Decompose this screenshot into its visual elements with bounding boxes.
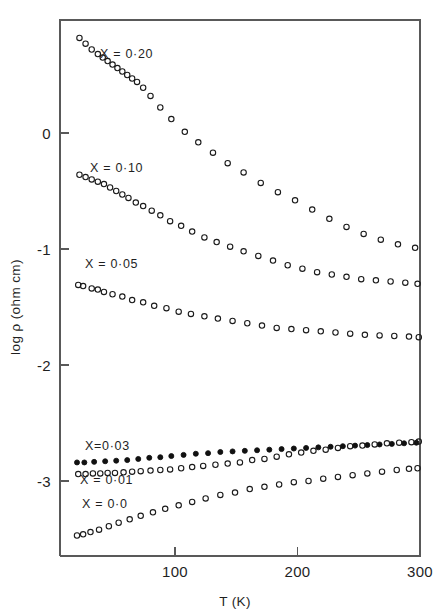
figure-panel: X = 0·20X = 0·10X = 0·05X=0·03X = 0·01X …	[0, 0, 448, 615]
data-point	[89, 177, 94, 182]
data-point	[158, 105, 163, 110]
data-point	[406, 466, 411, 471]
data-point	[245, 321, 250, 326]
data-point	[103, 459, 108, 464]
data-point	[403, 280, 408, 285]
data-point	[158, 467, 163, 472]
data-point	[134, 79, 139, 84]
data-point	[392, 333, 397, 338]
data-point	[114, 188, 119, 193]
data-point	[158, 213, 163, 218]
data-point	[127, 517, 132, 522]
data-point	[178, 223, 183, 228]
data-point	[328, 444, 333, 449]
y-axis-tick-label: 0	[42, 125, 51, 142]
data-point	[163, 506, 168, 511]
data-point	[388, 279, 393, 284]
data-point	[120, 294, 125, 299]
data-point	[247, 486, 252, 491]
x-axis-tick-label: 300	[407, 563, 433, 580]
data-point	[360, 443, 365, 448]
data-point	[215, 316, 220, 321]
y-axis-title: log ρ (ohm cm)	[8, 259, 23, 355]
data-point	[225, 160, 230, 165]
resistivity-vs-temperature-chart: X = 0·20X = 0·10X = 0·05X=0·03X = 0·01X …	[0, 0, 448, 615]
data-point	[292, 198, 297, 203]
data-point	[120, 192, 125, 197]
data-point	[230, 318, 235, 323]
data-point	[148, 468, 153, 473]
data-point	[110, 62, 115, 67]
data-point	[314, 270, 319, 275]
data-point	[316, 445, 321, 450]
data-point	[110, 292, 115, 297]
data-point	[275, 189, 280, 194]
data-point	[83, 174, 88, 179]
data-point	[276, 482, 281, 487]
data-point	[321, 476, 326, 481]
data-point	[267, 447, 272, 452]
data-point	[241, 170, 246, 175]
data-point	[406, 334, 411, 339]
series-label: X = 0·01	[80, 473, 133, 487]
data-point	[202, 235, 207, 240]
data-point	[344, 224, 349, 229]
data-point	[365, 471, 370, 476]
series-annotations-group: X = 0·20X = 0·10X = 0·05X=0·03X = 0·01X …	[80, 47, 153, 511]
series-label: X = 0·0	[82, 497, 128, 511]
data-point	[311, 448, 316, 453]
data-point	[347, 444, 352, 449]
data-point	[149, 208, 154, 213]
data-point	[218, 450, 223, 455]
data-point	[279, 447, 284, 452]
data-point	[213, 462, 218, 467]
data-point	[335, 445, 340, 450]
data-point	[129, 76, 134, 81]
data-point	[327, 216, 332, 221]
tick-labels-group: 0-1-2-3100200300	[37, 125, 433, 581]
data-point	[107, 185, 112, 190]
y-axis-tick-label: -3	[37, 473, 51, 490]
data-point	[83, 41, 88, 46]
data-point	[377, 333, 382, 338]
data-point	[373, 278, 378, 283]
data-point	[298, 450, 303, 455]
data-point	[126, 195, 131, 200]
data-point	[151, 303, 156, 308]
data-point	[115, 65, 120, 70]
data-point	[255, 448, 260, 453]
data-point	[125, 458, 130, 463]
data-point	[88, 529, 93, 534]
data-point	[306, 478, 311, 483]
data-point	[333, 330, 338, 335]
data-point	[120, 69, 125, 74]
data-point	[133, 200, 138, 205]
data-point	[289, 326, 294, 331]
data-point	[92, 459, 97, 464]
data-point	[396, 440, 401, 445]
data-point	[300, 266, 305, 271]
data-series	[77, 35, 418, 250]
x-axis-tick-label: 100	[162, 563, 188, 580]
data-point	[148, 93, 153, 98]
data-point	[258, 180, 263, 185]
data-point	[237, 460, 242, 465]
data-point	[75, 460, 80, 465]
data-point	[77, 172, 82, 177]
data-point	[262, 484, 267, 489]
data-point	[106, 524, 111, 529]
data-point	[188, 311, 193, 316]
series-label: X = 0·10	[90, 161, 143, 175]
data-point	[96, 527, 101, 532]
data-point	[125, 72, 130, 77]
data-point	[395, 242, 400, 247]
data-point	[200, 463, 205, 468]
data-point	[350, 473, 355, 478]
data-point	[241, 249, 246, 254]
y-axis-tick-label: -1	[37, 241, 51, 258]
data-point	[136, 456, 141, 461]
data-point	[140, 300, 145, 305]
data-point	[176, 503, 181, 508]
data-point	[242, 448, 247, 453]
data-point	[329, 272, 334, 277]
